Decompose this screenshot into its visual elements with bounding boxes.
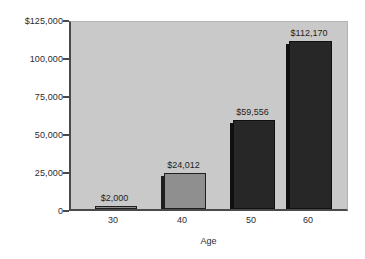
bar-60: $112,170 [286, 41, 332, 209]
x-tick-label-30: 30 [93, 216, 133, 225]
bar-body-60 [289, 41, 332, 209]
bar-chart-figure: $125,000 100,000 75,000 50,000 25,000 0 … [0, 0, 365, 259]
y-axis-labels: $125,000 100,000 75,000 50,000 25,000 0 [0, 21, 63, 211]
x-tick-label-50: 50 [231, 216, 271, 225]
bar-value-label-30: $2,000 [101, 194, 129, 203]
bar-body-40 [164, 173, 206, 209]
x-tick-label-60: 60 [288, 216, 328, 225]
y-tick-label-75000: 75,000 [0, 93, 63, 102]
x-axis-labels: 30 40 50 60 [69, 216, 348, 230]
y-tick-label-50000: 50,000 [0, 131, 63, 140]
plot-area: $2,000 $24,012 $59,556 $112,170 [69, 21, 348, 211]
x-axis-title: Age [69, 237, 348, 246]
bar-50: $59,556 [230, 120, 275, 209]
y-tick-label-25000: 25,000 [0, 169, 63, 178]
bar-body-30 [95, 206, 137, 209]
bar-value-label-60: $112,170 [291, 29, 328, 38]
bar-40: $24,012 [161, 173, 206, 209]
bar-body-50 [233, 120, 275, 209]
y-tick-label-0: 0 [0, 207, 63, 216]
bar-30: $2,000 [92, 206, 137, 209]
bar-value-label-50: $59,556 [236, 108, 269, 117]
y-tick-label-125000: $125,000 [0, 17, 63, 26]
x-tick-label-40: 40 [162, 216, 202, 225]
bar-value-label-40: $24,012 [167, 161, 200, 170]
y-tick-label-100000: 100,000 [0, 55, 63, 64]
